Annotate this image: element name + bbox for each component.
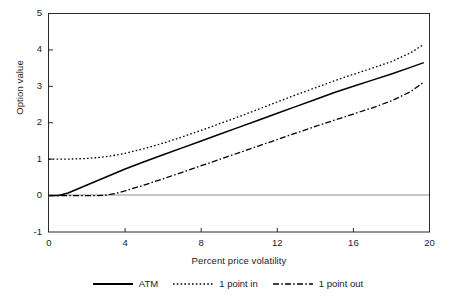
legend-swatch-dashdot <box>272 279 314 289</box>
legend-label: 1 point out <box>319 278 363 289</box>
plot-frame <box>49 14 430 233</box>
legend-item-1-point-out[interactable]: 1 point out <box>272 278 363 289</box>
legend-item-atm[interactable]: ATM <box>92 278 158 289</box>
legend-swatch-dotted <box>172 279 214 289</box>
y-tick-label: 5 <box>20 7 42 18</box>
y-tick-label: 0 <box>20 189 42 200</box>
y-axis-tick-marks <box>49 50 53 196</box>
x-tick-label: 4 <box>112 237 138 248</box>
x-tick-label: 8 <box>188 237 214 248</box>
legend-swatch-solid <box>92 279 134 289</box>
data-series-group <box>49 44 424 195</box>
legend-label: 1 point in <box>219 278 258 289</box>
x-tick-label: 20 <box>417 237 443 248</box>
y-axis-title: Option value <box>14 33 25 143</box>
legend-item-1-point-in[interactable]: 1 point in <box>172 278 258 289</box>
series-line-1-point-in <box>49 44 424 159</box>
legend-label: ATM <box>139 278 158 289</box>
x-tick-label: 0 <box>36 237 62 248</box>
x-tick-label: 12 <box>264 237 290 248</box>
chart-legend: ATM1 point in1 point out <box>0 278 455 289</box>
x-axis-tick-marks <box>125 228 353 232</box>
y-tick-label: -1 <box>20 226 42 237</box>
series-line-1-point-out <box>49 82 424 196</box>
series-line-atm <box>49 63 424 196</box>
x-tick-label: 16 <box>340 237 366 248</box>
chart-figure: 543210-1 048121620 Option value Percent … <box>0 0 455 303</box>
y-tick-label: 1 <box>20 153 42 164</box>
x-axis-title: Percent price volatility <box>48 255 430 266</box>
